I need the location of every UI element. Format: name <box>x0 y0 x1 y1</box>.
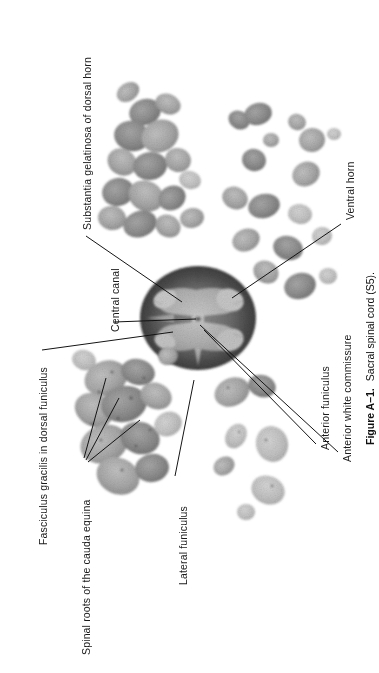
label-lateral-funiculus: Lateral funiculus <box>178 506 189 585</box>
label-fasciculus-gracilis: Fasciculus gracilis in dorsal funiculus <box>38 367 49 545</box>
figure-caption: Figure A–1.Sacral spinal cord (S5). <box>365 272 376 445</box>
figure-number: Figure A–1. <box>364 388 376 445</box>
label-anterior-funiculus: Anterior funiculus <box>320 366 331 450</box>
label-anterior-white-commissure: Anterior white commissure <box>342 335 353 462</box>
label-spinal-roots-cauda-equina: Spinal roots of the cauda equina <box>81 500 92 655</box>
label-ventral-horn: Ventral horn <box>345 162 356 220</box>
label-substantia-gelatinosa: Substantia gelatinosa of dorsal horn <box>82 57 93 230</box>
figure-caption-text: Sacral spinal cord (S5). <box>364 272 376 381</box>
label-central-canal: Central canal <box>110 268 121 332</box>
spinal-cord-photomicrograph <box>0 0 379 673</box>
figure-page: Substantia gelatinosa of dorsal horn Cen… <box>0 0 379 673</box>
